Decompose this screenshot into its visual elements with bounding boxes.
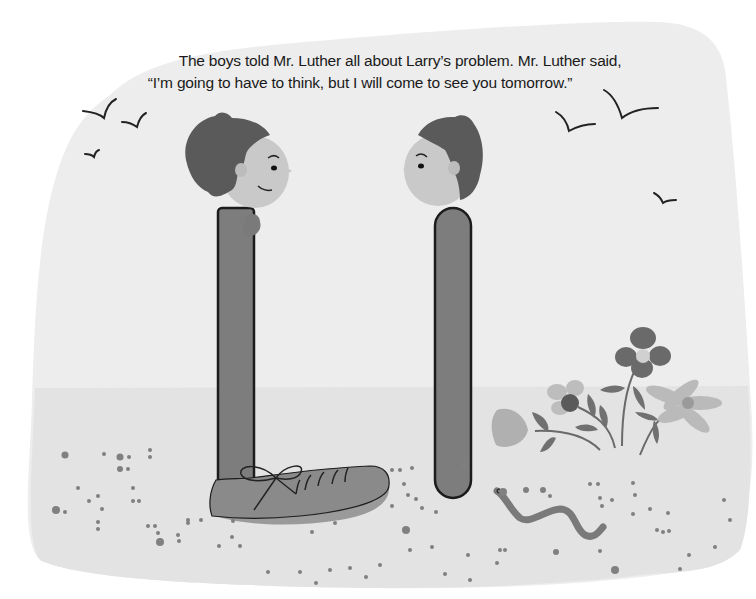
left-boy-body <box>218 208 254 498</box>
left-boy-eye <box>271 166 277 171</box>
right-boy-eye <box>418 164 424 169</box>
right-boy-ear <box>448 161 460 175</box>
caption-line-2: “I’m going to have to think, but I will … <box>60 72 700 94</box>
left-boy-ear <box>235 163 247 177</box>
right-boy-body <box>435 208 471 498</box>
story-caption: The boys told Mr. Luther all about Larry… <box>60 50 700 94</box>
caption-line-1: The boys told Mr. Luther all about Larry… <box>60 50 700 72</box>
